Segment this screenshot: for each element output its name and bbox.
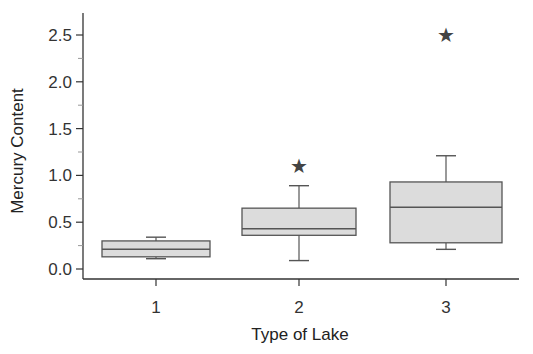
x-tick-label: 1 <box>151 298 160 317</box>
y-tick-label: 0.0 <box>48 260 72 279</box>
iqr-box <box>390 182 502 243</box>
y-axis-label: Mercury Content <box>8 88 27 214</box>
box-1 <box>102 237 210 259</box>
x-tick-label: 3 <box>441 298 450 317</box>
outlier-star-icon: ★ <box>437 23 455 47</box>
x-tick-label: 2 <box>294 298 303 317</box>
boxplot-chart: 0.00.51.01.52.02.5123 ★★ Mercury Content… <box>0 0 533 354</box>
axes: 0.00.51.01.52.02.5123 <box>48 13 519 317</box>
y-tick-label: 2.5 <box>48 26 72 45</box>
y-tick-label: 1.0 <box>48 166 72 185</box>
iqr-box <box>242 208 356 235</box>
box-3: ★ <box>390 23 502 249</box>
y-tick-label: 2.0 <box>48 73 72 92</box>
box-2: ★ <box>242 154 356 261</box>
y-tick-label: 0.5 <box>48 213 72 232</box>
y-tick-label: 1.5 <box>48 120 72 139</box>
x-axis-label: Type of Lake <box>251 325 348 344</box>
boxes: ★★ <box>102 23 502 261</box>
outlier-star-icon: ★ <box>290 154 308 178</box>
